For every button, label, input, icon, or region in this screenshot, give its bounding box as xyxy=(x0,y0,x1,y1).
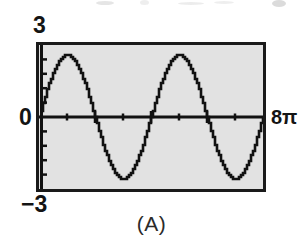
sine-graph-figure: 3 −3 0 8π (A) xyxy=(0,0,303,246)
plot-canvas xyxy=(39,45,263,189)
figure-caption: (A) xyxy=(0,212,303,236)
plot-frame xyxy=(36,42,266,192)
origin-label: 0 xyxy=(19,106,32,129)
y-max-label: 3 xyxy=(33,14,46,37)
x-max-label: 8π xyxy=(271,107,297,127)
